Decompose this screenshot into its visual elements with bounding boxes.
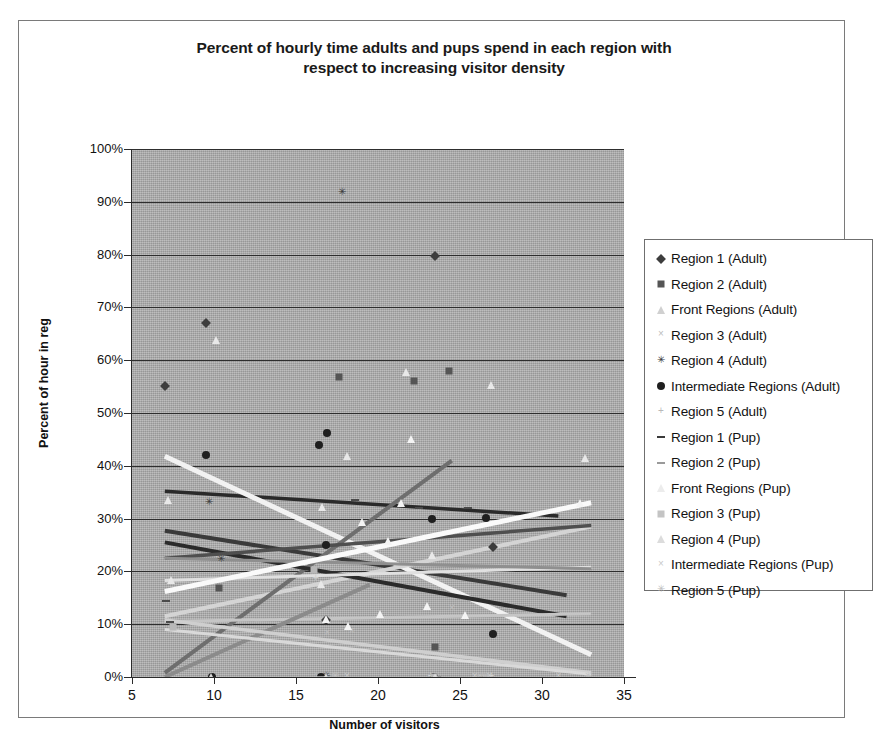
- legend-item-1[interactable]: Region 2 (Adult): [651, 272, 868, 298]
- legend-marker-triangle: [651, 303, 671, 317]
- x-tick-mark: [214, 677, 215, 684]
- legend-item-12[interactable]: ×Intermediate Regions (Pup): [651, 552, 868, 578]
- legend-label: Region 4 (Pup): [671, 532, 760, 547]
- dash-light-marker: [657, 462, 665, 464]
- legend-marker-circle: [651, 379, 671, 393]
- y-tick-label: 70%: [63, 299, 123, 314]
- legend-label: Region 5 (Adult): [671, 404, 767, 419]
- legend-item-11[interactable]: Region 4 (Pup): [651, 527, 868, 553]
- y-axis-line: [131, 149, 132, 678]
- legend-label: Region 4 (Adult): [671, 353, 767, 368]
- cross-marker: ×: [656, 330, 666, 340]
- legend-marker-star-light: ✳: [651, 583, 671, 597]
- legend-item-2[interactable]: Front Regions (Adult): [651, 297, 868, 323]
- legend-label: Region 1 (Pup): [671, 430, 760, 445]
- trend-line: [165, 491, 559, 516]
- y-tick-label: 80%: [63, 247, 123, 262]
- legend-marker-cross-light: ×: [651, 558, 671, 572]
- legend-marker-cross: ×: [651, 328, 671, 342]
- legend-label: Region 3 (Adult): [671, 328, 767, 343]
- chart-title-line-1: Percent of hourly time adults and pups s…: [79, 38, 789, 58]
- chart-title-line-2: respect to increasing visitor density: [79, 58, 789, 78]
- legend-label: Region 2 (Pup): [671, 455, 760, 470]
- square-light-marker: [658, 510, 665, 517]
- y-tick-label: 0%: [63, 669, 123, 684]
- legend-item-6[interactable]: +Region 5 (Adult): [651, 399, 868, 425]
- legend-marker-dash: [651, 430, 671, 444]
- x-tick-label: 35: [604, 687, 644, 703]
- legend-label: Region 2 (Adult): [671, 277, 767, 292]
- y-axis-title: Percent of hour in reg: [37, 288, 51, 478]
- x-tick-label: 10: [194, 687, 234, 703]
- x-tick-mark: [624, 677, 625, 684]
- chart-legend: Region 1 (Adult)Region 2 (Adult)Front Re…: [644, 239, 873, 591]
- y-axis-tick-labels: 0%10%20%30%40%50%60%70%80%90%100%: [55, 21, 123, 744]
- legend-marker-plus: +: [651, 405, 671, 419]
- legend-item-4[interactable]: ✳Region 4 (Adult): [651, 348, 868, 374]
- x-tick-label: 15: [276, 687, 316, 703]
- triangle-mid-marker: [657, 535, 665, 543]
- legend-item-13[interactable]: ✳Region 5 (Pup): [651, 578, 868, 604]
- legend-label: Intermediate Regions (Pup): [671, 557, 834, 572]
- legend-item-10[interactable]: Region 3 (Pup): [651, 501, 868, 527]
- chart-frame: Percent of hourly time adults and pups s…: [18, 20, 845, 718]
- legend-label: Region 5 (Pup): [671, 583, 760, 598]
- legend-label: Front Regions (Pup): [671, 481, 791, 496]
- trend-line: [165, 629, 591, 674]
- y-tick-label: 100%: [63, 141, 123, 156]
- x-tick-label: 25: [440, 687, 480, 703]
- legend-marker-diamond: [651, 252, 671, 266]
- dash-marker: [657, 436, 665, 438]
- plot-area: ××××✳✳✳✳+++××××✳✳✳: [132, 149, 624, 677]
- y-tick-label: 10%: [63, 616, 123, 631]
- cross-light-marker: ×: [656, 560, 666, 570]
- legend-label: Region 3 (Pup): [671, 506, 760, 521]
- trend-lines: [132, 149, 624, 677]
- y-tick-label: 40%: [63, 458, 123, 473]
- y-tick-label: 60%: [63, 352, 123, 367]
- triangle-light-marker: [657, 484, 665, 492]
- y-tick-label: 20%: [63, 563, 123, 578]
- star-light-marker: ✳: [656, 585, 666, 595]
- x-tick-mark: [296, 677, 297, 684]
- legend-item-0[interactable]: Region 1 (Adult): [651, 246, 868, 272]
- legend-marker-triangle-mid: [651, 532, 671, 546]
- x-tick-label: 5: [112, 687, 152, 703]
- x-tick-mark: [132, 677, 133, 684]
- y-tick-label: 50%: [63, 405, 123, 420]
- x-tick-mark: [378, 677, 379, 684]
- plus-marker: +: [656, 407, 666, 417]
- x-tick-label: 20: [358, 687, 398, 703]
- star-marker: ✳: [656, 356, 666, 366]
- legend-item-5[interactable]: Intermediate Regions (Adult): [651, 374, 868, 400]
- legend-marker-square-light: [651, 507, 671, 521]
- x-tick-label: 30: [522, 687, 562, 703]
- x-axis-line: [131, 677, 636, 678]
- legend-label: Front Regions (Adult): [671, 302, 797, 317]
- legend-item-7[interactable]: Region 1 (Pup): [651, 425, 868, 451]
- trend-line: [165, 614, 591, 622]
- legend-marker-triangle-light: [651, 481, 671, 495]
- legend-item-9[interactable]: Front Regions (Pup): [651, 476, 868, 502]
- legend-item-8[interactable]: Region 2 (Pup): [651, 450, 868, 476]
- square-marker: [658, 281, 665, 288]
- trend-line: [165, 558, 591, 569]
- x-axis-title: Number of visitors: [132, 718, 637, 732]
- x-tick-mark: [460, 677, 461, 684]
- triangle-marker: [657, 306, 665, 314]
- legend-label: Intermediate Regions (Adult): [671, 379, 840, 394]
- legend-marker-dash-light: [651, 456, 671, 470]
- circle-marker: [657, 382, 665, 390]
- legend-marker-square: [651, 277, 671, 291]
- legend-item-3[interactable]: ×Region 3 (Adult): [651, 323, 868, 349]
- x-tick-mark: [542, 677, 543, 684]
- y-tick-label: 30%: [63, 511, 123, 526]
- y-tick-label: 90%: [63, 194, 123, 209]
- diamond-marker: [656, 254, 666, 264]
- chart-title: Percent of hourly time adults and pups s…: [79, 38, 789, 79]
- legend-marker-star: ✳: [651, 354, 671, 368]
- legend-label: Region 1 (Adult): [671, 251, 767, 266]
